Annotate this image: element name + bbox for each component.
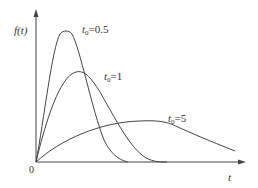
label-val: =5 (175, 112, 187, 124)
x-axis-arrow-icon (238, 160, 246, 165)
series-label-t0-5: t0=5 (168, 113, 186, 126)
origin-label: 0 (29, 165, 34, 175)
curve-t0-1 (36, 72, 167, 162)
chart-canvas (0, 0, 258, 188)
series-label-t0-0.5: t0=0.5 (82, 24, 109, 37)
y-axis-arrow-icon (34, 9, 39, 17)
label-val: =0.5 (89, 23, 109, 35)
x-axis-label: t (228, 172, 231, 183)
curve-t0-0.5 (36, 31, 128, 162)
origin-text: 0 (29, 164, 34, 175)
y-axis-label: f(t) (14, 25, 27, 36)
series-label-t0-1: t0=1 (104, 71, 122, 84)
label-val: =1 (111, 70, 123, 82)
curve-t0-5 (36, 121, 235, 162)
